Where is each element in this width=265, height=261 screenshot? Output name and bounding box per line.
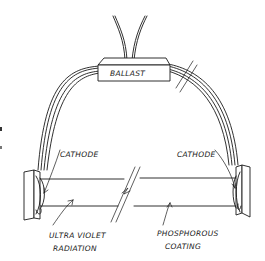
ballast: BALLAST xyxy=(98,58,170,81)
edge-mark xyxy=(0,127,2,131)
fluorescent-tube xyxy=(40,167,236,222)
tube-break-mark xyxy=(111,167,135,222)
phosphor-coating-label-line2: COATING xyxy=(165,242,201,251)
fluorescent-lamp-diagram: BALLAST xyxy=(0,0,265,261)
callouts xyxy=(44,150,236,225)
uv-radiation-label-line1: ULTRA VIOLET xyxy=(49,231,107,240)
cathode-left-label: CATHODE xyxy=(60,150,99,159)
uv-radiation-label-line2: RADIATION xyxy=(53,244,97,253)
right-endcap xyxy=(233,165,250,217)
phosphor-coating-label-line1: PHOSPHOROUS xyxy=(157,229,219,238)
cathode-right-label: CATHODE xyxy=(177,150,216,159)
power-wires xyxy=(113,16,147,60)
left-endcap xyxy=(24,170,45,220)
edge-mark xyxy=(0,146,2,149)
ballast-label: BALLAST xyxy=(110,69,146,78)
